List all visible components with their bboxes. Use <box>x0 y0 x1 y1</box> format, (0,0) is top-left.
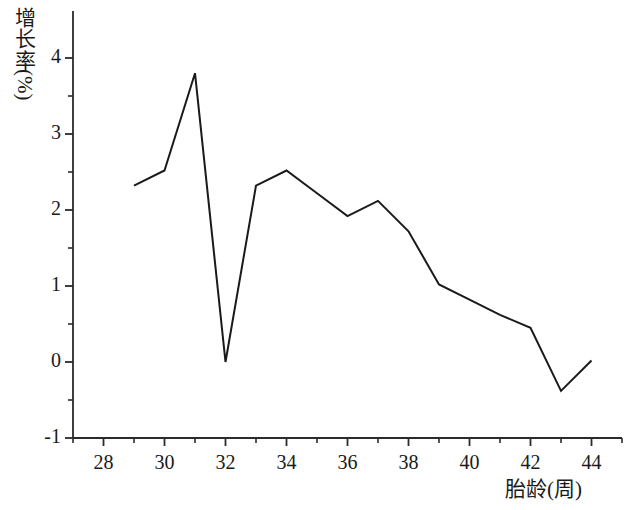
x-tick-label: 28 <box>79 451 129 474</box>
y-tick-label: 1 <box>15 273 61 296</box>
chart-figure: 增 长 率 (%) 胎龄(周) -101234 2830323436384042… <box>0 0 635 510</box>
x-tick-label: 44 <box>567 451 617 474</box>
x-tick-label: 34 <box>262 451 312 474</box>
x-tick-label: 36 <box>323 451 373 474</box>
data-line-0 <box>134 73 592 391</box>
x-tick-label: 40 <box>445 451 495 474</box>
x-tick-label: 32 <box>201 451 251 474</box>
x-tick-label: 38 <box>384 451 434 474</box>
y-tick-label: 3 <box>15 121 61 144</box>
x-tick-label: 30 <box>140 451 190 474</box>
y-tick-label: -1 <box>15 425 61 448</box>
x-tick-label: 42 <box>506 451 556 474</box>
y-tick-label: 2 <box>15 197 61 220</box>
y-tick-label: 4 <box>15 45 61 68</box>
plot-area <box>0 0 635 510</box>
axis-spines <box>73 11 622 438</box>
y-tick-label: 0 <box>15 349 61 372</box>
